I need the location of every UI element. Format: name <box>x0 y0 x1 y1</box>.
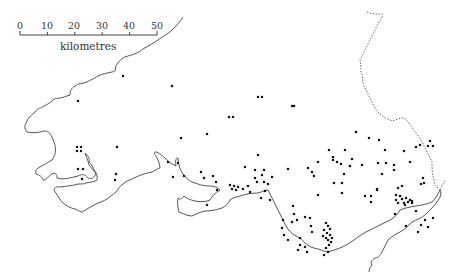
border-england-wales <box>360 12 440 190</box>
site-dot <box>395 199 397 201</box>
scale-tick-20: 20 <box>68 20 80 31</box>
site-dot <box>411 202 413 204</box>
site-dot <box>332 159 334 161</box>
site-dot <box>299 237 301 239</box>
site-dot <box>180 137 182 139</box>
site-dot <box>267 183 269 185</box>
site-dot <box>215 181 217 183</box>
site-dot <box>254 169 256 171</box>
site-dot <box>415 146 417 148</box>
site-dot <box>323 229 325 231</box>
site-dot <box>206 204 208 206</box>
site-dot <box>307 167 309 169</box>
site-dot <box>297 249 299 251</box>
site-dot <box>409 161 411 163</box>
site-dot <box>233 185 235 187</box>
site-dot <box>172 176 174 178</box>
site-dot <box>411 200 413 202</box>
site-dot <box>293 105 295 107</box>
site-dot <box>385 162 387 164</box>
site-dot <box>317 194 319 196</box>
site-dot <box>260 197 262 199</box>
site-dot <box>237 186 239 188</box>
site-dot <box>327 225 329 227</box>
site-dot <box>322 235 324 237</box>
site-dot <box>393 169 395 171</box>
site-dot <box>401 198 403 200</box>
site-dot <box>384 149 386 151</box>
site-dot <box>216 189 218 191</box>
site-dot <box>76 146 78 148</box>
site-dot <box>341 182 343 184</box>
site-dot <box>394 213 396 215</box>
site-dot <box>343 173 345 175</box>
site-dot <box>256 181 258 183</box>
site-dot <box>287 239 289 241</box>
site-dot <box>333 182 335 184</box>
site-dot <box>325 247 327 249</box>
site-dot <box>242 188 244 190</box>
site-dot <box>247 185 249 187</box>
site-dot <box>293 213 295 215</box>
site-dot <box>206 133 208 135</box>
site-dot <box>167 161 169 163</box>
site-dot <box>257 154 259 156</box>
site-dot <box>399 195 401 197</box>
site-dot <box>415 210 417 212</box>
scale-tick-40: 40 <box>123 20 135 31</box>
site-dot <box>420 224 422 226</box>
site-dot <box>427 145 429 147</box>
site-dot <box>232 116 234 118</box>
site-dot <box>422 177 424 179</box>
site-dot <box>397 187 399 189</box>
border-estuary-edge <box>440 180 446 190</box>
site-dot <box>183 175 185 177</box>
site-dot <box>327 251 329 253</box>
site-dot <box>355 131 357 133</box>
site-dot <box>401 185 403 187</box>
site-dot <box>115 173 117 175</box>
site-dot <box>310 225 312 227</box>
site-dot <box>244 166 246 168</box>
site-dot <box>329 234 331 236</box>
site-dot <box>291 105 293 107</box>
site-dot <box>349 165 351 167</box>
site-dot <box>283 234 285 236</box>
site-dot <box>331 237 333 239</box>
site-dot <box>116 146 118 148</box>
site-dot <box>344 149 346 151</box>
scale-tick-0: 0 <box>17 20 23 31</box>
site-dot <box>417 231 419 233</box>
coastline-gower <box>178 190 268 216</box>
site-dot <box>281 227 283 229</box>
site-dot <box>80 146 82 148</box>
archaeological-sites <box>76 75 434 256</box>
site-dot <box>423 182 425 184</box>
site-dot <box>292 205 294 207</box>
site-dot <box>407 201 409 203</box>
site-dot <box>257 96 259 98</box>
site-dot <box>368 137 370 139</box>
scale-tick-30: 30 <box>96 20 108 31</box>
site-dot <box>254 177 256 179</box>
site-dot <box>249 191 251 193</box>
site-dot <box>299 244 301 246</box>
site-dot <box>332 156 334 158</box>
site-dot <box>317 161 319 163</box>
site-dot <box>376 188 378 190</box>
site-dot <box>330 241 332 243</box>
site-dot <box>393 164 395 166</box>
site-dot <box>306 251 308 253</box>
site-dot <box>378 139 380 141</box>
site-dot <box>203 177 205 179</box>
site-dot <box>282 219 284 221</box>
site-dot <box>171 85 173 87</box>
site-dot <box>76 150 78 152</box>
site-dot <box>271 176 273 178</box>
site-dot <box>336 161 338 163</box>
site-dot <box>228 116 230 118</box>
site-dot <box>269 199 271 201</box>
site-dot <box>327 239 329 241</box>
site-dot <box>397 202 399 204</box>
site-dot <box>361 164 363 166</box>
